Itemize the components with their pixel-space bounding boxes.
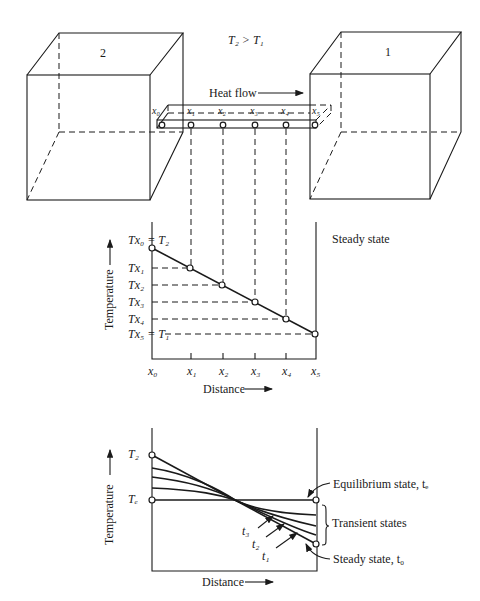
time-label-t2: t₂ <box>252 537 260 551</box>
reservoir-2-label: 2 <box>100 46 106 60</box>
steady-ylabel: Temperature <box>102 270 116 330</box>
steady-chart-title: Steady state <box>332 232 390 246</box>
y-label-t2: T₂ <box>128 447 139 461</box>
steady-state-line <box>152 248 315 334</box>
x-tick-x1: x₁ <box>186 364 197 378</box>
reservoir-1-cube: 1 <box>310 32 461 199</box>
heat-flow-label: Heat flow <box>209 86 257 100</box>
y-label-tx2: Tx₂ <box>128 278 144 292</box>
y-label-tx4: Tx₄ <box>128 312 144 326</box>
x-tick-x0: x₀ <box>147 364 158 378</box>
steady-state-chart <box>149 222 318 359</box>
y-label-te: Tₑ <box>128 492 138 506</box>
projection-lines <box>191 129 286 319</box>
transient-ylabel: Temperature <box>102 485 116 545</box>
time-label-t3: t₃ <box>242 524 250 538</box>
x-tick-x2: x₂ <box>218 364 229 378</box>
transient-annotation: Transient states <box>332 516 407 530</box>
time-label-t1: t₁ <box>262 549 270 563</box>
x-tick-x5: x₅ <box>310 364 321 378</box>
transient-curve-t1 <box>152 488 316 535</box>
steady-xlabel: Distance <box>203 382 245 396</box>
transient-curve-t2 <box>152 477 316 526</box>
bar-position-x0: x₀ <box>151 105 160 116</box>
transient-curve-t3 <box>152 468 316 515</box>
condition-label: T₂ > T₁ <box>228 33 264 47</box>
bar-position-x3: x₃ <box>249 105 258 116</box>
bar-position-x1: x₁ <box>186 105 195 116</box>
reservoir-1-label: 1 <box>385 45 391 59</box>
y-label-tx3: Tx₃ <box>128 295 144 309</box>
x-tick-x4: x₄ <box>281 364 292 378</box>
steady-annotation: Steady state, t₀ <box>333 552 404 566</box>
bar-position-x5: x₅ <box>311 105 320 116</box>
transient-chart <box>149 428 330 571</box>
bar-position-x4: x₄ <box>280 105 289 116</box>
y-label-tx0: Tx₀ = T₂ <box>128 233 169 247</box>
heat-flow-diagram: T₂ > T₁ 2 1 Heat flow <box>0 0 480 601</box>
transient-xlabel: Distance <box>202 575 244 589</box>
y-label-tx1: Tx₁ <box>128 261 144 275</box>
bar-position-x2: x₂ <box>217 105 226 116</box>
x-tick-x3: x₃ <box>250 364 261 378</box>
equilibrium-annotation: Equilibrium state, tₑ <box>333 477 428 491</box>
y-label-tx5: Tx₅ = T₁ <box>128 327 169 341</box>
